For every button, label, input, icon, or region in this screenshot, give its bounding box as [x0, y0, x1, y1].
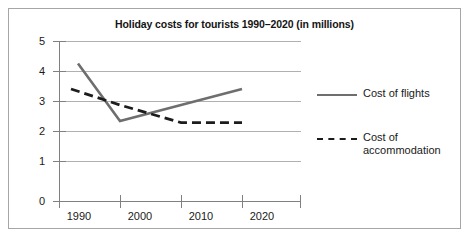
series-cost-of-flights — [78, 63, 242, 121]
legend-item-cost-of-accommodation: Cost ofaccommodation — [315, 131, 463, 157]
chart-container: Holiday costs for tourists 1990–2020 (in… — [8, 8, 461, 229]
solid-line-icon — [315, 89, 359, 101]
x-tick-label-2020: 2020 — [232, 210, 292, 222]
y-tick-label-1: 1 — [23, 155, 45, 167]
legend-label-line-2: accommodation — [363, 144, 441, 156]
x-tick-label-1990: 1990 — [49, 210, 109, 222]
y-tick-label-2: 2 — [23, 125, 45, 137]
gridlines — [59, 42, 301, 162]
y-tick-label-5: 5 — [23, 35, 45, 47]
legend-label-line-1: Cost of — [363, 131, 398, 143]
legend-label-cost-of-flights: Cost of flights — [359, 87, 430, 100]
x-tick-label-2000: 2000 — [110, 210, 170, 222]
y-tick-label-3: 3 — [23, 95, 45, 107]
y-tick-label-4: 4 — [23, 65, 45, 77]
chart-legend: Cost of flights Cost ofaccommodation — [315, 87, 463, 187]
x-tick-label-2010: 2010 — [171, 210, 231, 222]
legend-label-cost-of-accommodation: Cost ofaccommodation — [359, 131, 441, 157]
series-cost-of-accommodation — [71, 89, 242, 123]
legend-item-cost-of-flights: Cost of flights — [315, 87, 463, 101]
y-tick-label-0: 0 — [23, 195, 45, 207]
dashed-line-icon — [315, 133, 359, 145]
